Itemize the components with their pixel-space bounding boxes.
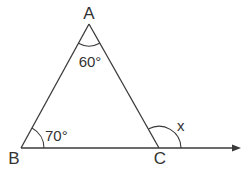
- angle-label-exterior-x: x: [177, 117, 185, 134]
- triangle-diagram: A B C 60° 70° x: [0, 0, 244, 170]
- arrowhead-icon: [232, 145, 241, 152]
- vertex-label-b: B: [8, 149, 19, 168]
- angle-label-a: 60°: [79, 53, 102, 70]
- angle-arc-b: [32, 128, 44, 148]
- vertex-label-a: A: [83, 4, 95, 23]
- angle-arc-a: [78, 43, 99, 46]
- side-ac: [89, 24, 159, 148]
- vertex-label-c: C: [154, 149, 166, 168]
- angle-label-b: 70°: [45, 127, 68, 144]
